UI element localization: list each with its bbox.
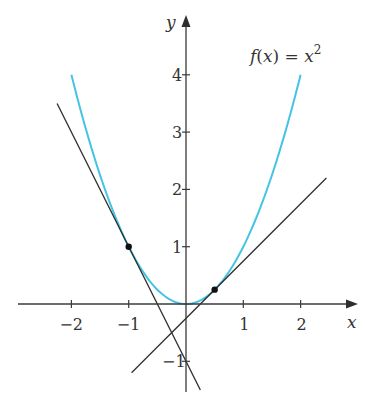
- y-axis: −11234 y: [162, 12, 191, 392]
- y-tick-label: 1: [172, 238, 182, 257]
- function-annotation: f(x) = x2: [248, 43, 321, 66]
- plot-area: [57, 75, 326, 390]
- tangency-point-1: [126, 244, 132, 250]
- y-axis-arrow-icon: [182, 15, 191, 27]
- x-tick-label: 1: [239, 315, 249, 334]
- tangency-point-2: [211, 286, 217, 292]
- y-tick-label: 2: [172, 180, 182, 199]
- x-axis-arrow-icon: [346, 300, 358, 309]
- tangent-line-2: [132, 178, 327, 373]
- y-tick-label: −1: [162, 352, 186, 371]
- x-axis-label: x: [347, 312, 357, 332]
- y-axis-label: y: [165, 12, 176, 32]
- x-tick-label: 2: [297, 315, 307, 334]
- x-tick-label: −2: [59, 315, 83, 334]
- chart: −2−112 x −11234 y f(x) = x2: [0, 0, 365, 403]
- y-tick-label: 3: [172, 123, 182, 142]
- y-tick-label: 4: [172, 66, 182, 85]
- x-tick-label: −1: [117, 315, 141, 334]
